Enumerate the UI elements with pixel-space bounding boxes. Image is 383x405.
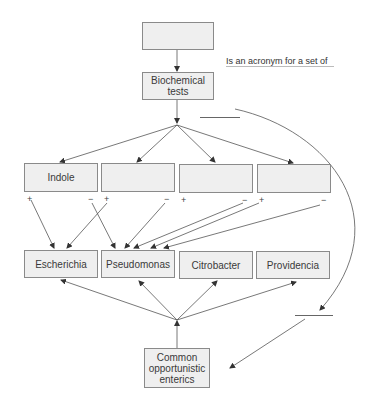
genus-box-citrobacter: Citrobacter [179,251,253,279]
genus-label: Providencia [267,260,319,271]
acronym-underline [226,66,334,67]
test-box-indole: Indole [24,163,98,192]
biochemical-tests-box: Biochemical tests [142,72,214,100]
genus-label: Pseudomonas [106,259,170,270]
blank-line-lower [295,315,333,316]
test-box-4-blank [257,164,331,193]
minus-sign: − [88,195,93,204]
minus-sign: − [242,196,247,205]
minus-sign: − [321,196,326,205]
blank-line-upper [200,117,240,118]
genus-box-providencia: Providencia [256,251,330,279]
common-enterics-box: Common opportunistic enterics [144,348,210,388]
top-blank-box [142,22,214,50]
concept-map: Is an acronym for a set of Biochemical t… [0,0,383,405]
test-box-3-blank [179,164,253,193]
test-box-2-blank [101,163,175,192]
genus-label: Citrobacter [192,260,241,271]
plus-sign: + [259,196,264,205]
common-enterics-label: Common opportunistic enterics [145,352,209,385]
genus-label: Escherichia [35,259,87,270]
plus-sign: + [104,195,109,204]
genus-box-escherichia: Escherichia [24,250,98,278]
plus-sign: + [181,196,186,205]
biochemical-tests-label: Biochemical tests [143,75,213,97]
test-box-label: Indole [47,172,74,183]
plus-sign: + [27,195,32,204]
acronym-label: Is an acronym for a set of [226,56,328,66]
minus-sign: − [164,195,169,204]
genus-box-pseudomonas: Pseudomonas [101,250,175,278]
